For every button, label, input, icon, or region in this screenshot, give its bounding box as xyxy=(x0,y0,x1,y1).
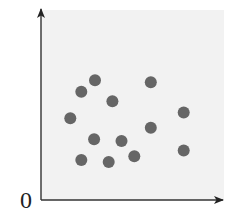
scatter-chart xyxy=(0,0,239,220)
data-point xyxy=(128,150,140,162)
data-point xyxy=(88,133,100,145)
data-point xyxy=(178,145,190,157)
data-point xyxy=(64,112,76,124)
data-point xyxy=(145,76,157,88)
plot-background xyxy=(41,10,224,200)
origin-label: 0 xyxy=(20,187,32,213)
data-point xyxy=(75,154,87,166)
data-point xyxy=(103,156,115,168)
data-point xyxy=(145,122,157,134)
data-point xyxy=(75,86,87,98)
data-point xyxy=(116,135,128,147)
data-point xyxy=(106,95,118,107)
data-point xyxy=(178,107,190,119)
data-point xyxy=(89,74,101,86)
